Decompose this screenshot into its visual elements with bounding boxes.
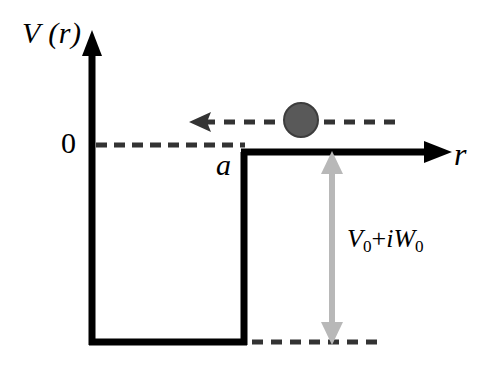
y-axis-label: V (r) — [22, 18, 81, 48]
particle-icon — [284, 103, 318, 137]
well-depth-plus: + — [371, 224, 386, 253]
diagram-canvas — [0, 0, 494, 369]
well-depth-measure-arrow — [321, 151, 343, 345]
well-depth-W-subscript: 0 — [415, 237, 424, 256]
potential-well-figure: V (r) 0 a r V0+iW0 — [0, 0, 494, 369]
well-depth-V: V — [347, 224, 363, 253]
depth-measure-arrowhead-down — [321, 322, 343, 345]
radius-label: a — [216, 150, 231, 180]
y-axis — [82, 30, 102, 345]
y-axis-arrowhead — [82, 30, 102, 56]
well-depth-W: W — [393, 224, 415, 253]
origin-label: 0 — [61, 128, 76, 158]
x-axis-arrowhead — [424, 141, 452, 163]
x-axis-label: r — [454, 138, 466, 170]
well-depth-label: V0+iW0 — [347, 226, 424, 252]
